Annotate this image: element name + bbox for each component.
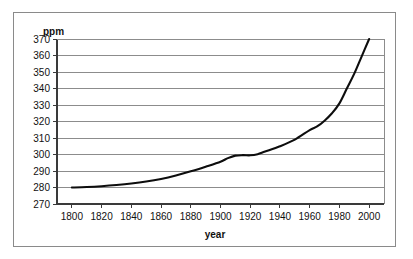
y-axis-tick-label: 300 xyxy=(33,149,50,160)
data-line-co2-concentration xyxy=(72,39,369,188)
gridlines xyxy=(57,39,384,188)
x-axis-tick-label: 2000 xyxy=(358,211,381,222)
chart-frame: 370360350340330320310300290280270 180018… xyxy=(13,12,396,247)
x-axis-tick-label: 1860 xyxy=(150,211,173,222)
x-axis-tick-label: 1920 xyxy=(239,211,262,222)
x-axis-tick-label: 1940 xyxy=(269,211,292,222)
y-axis-tick-label: 310 xyxy=(33,133,50,144)
co2-line-chart: 370360350340330320310300290280270 180018… xyxy=(14,13,397,248)
y-axis-tick-label: 290 xyxy=(33,166,50,177)
x-axis-tick-label: 1980 xyxy=(328,211,351,222)
x-axis-tick-label: 1900 xyxy=(209,211,232,222)
x-axis-tick-label: 1800 xyxy=(61,211,84,222)
y-axis-tick-label: 270 xyxy=(33,199,50,210)
y-axis-tick-label: 320 xyxy=(33,116,50,127)
y-axis-tick-label: 330 xyxy=(33,100,50,111)
x-axis-title: year xyxy=(205,229,226,240)
data-series xyxy=(72,39,369,188)
y-axis-tick-label: 360 xyxy=(33,50,50,61)
y-axis-unit-label: ppm xyxy=(43,26,64,37)
x-axis-tick-label: 1880 xyxy=(180,211,203,222)
y-axis-tick-label: 280 xyxy=(33,182,50,193)
x-axis-tick-label: 1820 xyxy=(90,211,113,222)
x-axis-tick-label: 1840 xyxy=(120,211,143,222)
x-axis-tick-labels: 1800182018401860188019001920194019601980… xyxy=(61,211,381,222)
y-axis-tick-label: 340 xyxy=(33,83,50,94)
y-axis-tick-label: 350 xyxy=(33,67,50,78)
y-axis-tick-labels: 370360350340330320310300290280270 xyxy=(33,34,50,210)
x-axis-tick-label: 1960 xyxy=(299,211,322,222)
